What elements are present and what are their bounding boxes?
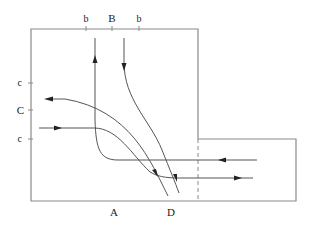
flow-right-to-top [93,38,258,163]
boundary-outline [31,29,296,201]
flow-top-to-bottom [122,38,180,193]
flow-to-left [44,97,168,197]
bottom-label-A: A [110,206,118,218]
top-label-B: B [108,12,115,24]
arrow-down-icon [122,63,127,71]
intersection-diagram: b B b c C c A D [0,0,314,230]
arrow-left-icon [218,158,226,163]
left-label-C: C [17,104,24,116]
arrow-left-icon [44,97,53,102]
left-label-c-top: c [18,77,23,88]
top-label-b-left: b [84,13,89,24]
left-label-c-bottom: c [18,133,23,144]
arrow-right-icon [234,176,242,181]
flow-left-to-right [39,126,253,181]
arrow-right-icon [54,126,62,131]
top-label-b-right: b [137,13,142,24]
arrow-down-right-icon [152,169,158,177]
arrow-up-icon [93,55,98,63]
bottom-label-D: D [167,206,175,218]
